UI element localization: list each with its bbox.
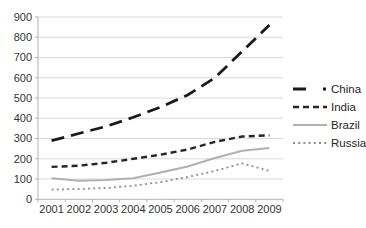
y-tick-label: 500 [14, 92, 32, 104]
series-line-china [52, 25, 270, 141]
series-line-india [52, 135, 270, 167]
y-tick-label: 100 [14, 173, 32, 185]
series-line-russia [52, 163, 270, 189]
legend-label-russia: Russia [331, 137, 366, 149]
legend-label-china: China [331, 83, 362, 95]
y-tick-label: 600 [14, 72, 32, 84]
x-tick-label: 2004 [121, 203, 145, 215]
x-tick-label: 2003 [94, 203, 118, 215]
x-tick-label: 2005 [148, 203, 172, 215]
x-tick-label: 2006 [175, 203, 199, 215]
chart-canvas: 0100200300400500600700800900200120022003… [0, 0, 366, 228]
y-tick-label: 400 [14, 112, 32, 124]
legend-label-brazil: Brazil [331, 119, 360, 131]
x-tick-label: 2001 [39, 203, 63, 215]
y-tick-label: 0 [26, 193, 32, 205]
x-tick-label: 2008 [230, 203, 254, 215]
line-chart: 0100200300400500600700800900200120022003… [0, 0, 366, 228]
x-tick-label: 2009 [257, 203, 281, 215]
x-tick-label: 2002 [67, 203, 91, 215]
x-tick-label: 2007 [203, 203, 227, 215]
y-tick-label: 300 [14, 132, 32, 144]
legend-label-india: India [331, 101, 357, 113]
y-tick-label: 900 [14, 11, 32, 23]
y-tick-label: 200 [14, 153, 32, 165]
y-tick-label: 700 [14, 51, 32, 63]
y-tick-label: 800 [14, 31, 32, 43]
